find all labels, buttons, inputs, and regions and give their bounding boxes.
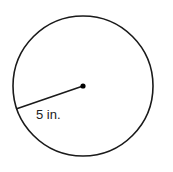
radius-line [16, 86, 83, 109]
center-point [80, 83, 85, 88]
circle-diagram: 5 in. [0, 0, 173, 172]
radius-label: 5 in. [36, 107, 61, 122]
